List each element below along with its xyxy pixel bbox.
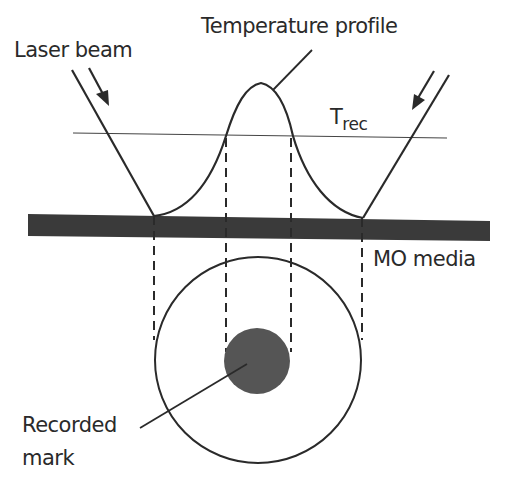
- recorded-mark-label-line1: Recorded: [22, 413, 117, 437]
- trec-threshold-line: [73, 133, 447, 138]
- mo-media-bar: [28, 214, 490, 241]
- temperature-profile-leader: [273, 50, 312, 90]
- recorded-mark-label-line2: mark: [22, 446, 74, 470]
- recorded-mark-dot: [224, 328, 290, 394]
- arrow-down-right-icon: [89, 68, 109, 106]
- laser-beam-label: Laser beam: [14, 38, 132, 62]
- temperature-profile-label: Temperature profile: [201, 14, 398, 38]
- mo-media-label: MO media: [373, 247, 476, 271]
- mo-recording-diagram: Laser beam Temperature profile Trec MO m…: [0, 0, 509, 492]
- trec-label: Trec: [330, 105, 367, 129]
- projection-lines: [154, 138, 362, 352]
- trec-main: T: [330, 105, 342, 129]
- trec-subscript: rec: [342, 114, 367, 134]
- laser-beam-right: [363, 75, 449, 218]
- laser-beam-left: [72, 70, 154, 216]
- temperature-profile-curve: [154, 83, 363, 218]
